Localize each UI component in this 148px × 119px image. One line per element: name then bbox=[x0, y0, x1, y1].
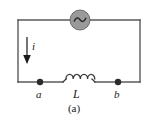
node-a-dot bbox=[37, 79, 43, 85]
inductor-label: L bbox=[73, 88, 80, 100]
node-b-label: b bbox=[114, 89, 120, 100]
current-arrow-icon bbox=[23, 37, 31, 64]
figure-caption: (a) bbox=[0, 103, 148, 114]
current-label: i bbox=[32, 41, 35, 52]
circuit-figure: i a L b (a) bbox=[0, 0, 148, 119]
node-b-dot bbox=[115, 79, 121, 85]
ac-source-icon bbox=[70, 10, 90, 30]
inductor-coil-icon bbox=[63, 74, 95, 82]
node-a-label: a bbox=[36, 89, 42, 100]
